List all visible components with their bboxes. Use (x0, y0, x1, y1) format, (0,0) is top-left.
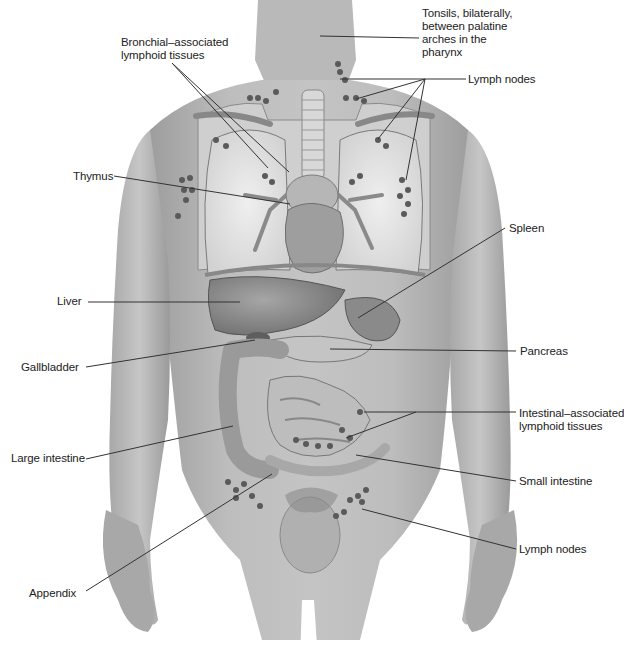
label-bronchial: Bronchial–associated lymphoid tissues (121, 36, 228, 62)
label-small-intestine: Small intestine (519, 475, 592, 488)
label-pancreas: Pancreas (520, 345, 568, 358)
label-tonsils: Tonsils, bilaterally, between palatine a… (422, 7, 512, 59)
label-gallbladder: Gallbladder (21, 361, 79, 374)
heart (285, 203, 343, 273)
label-spleen: Spleen (509, 222, 544, 235)
label-lymph-nodes-upper: Lymph nodes (468, 73, 536, 86)
label-large-intestine: Large intestine (11, 452, 85, 465)
label-thymus: Thymus (73, 170, 113, 183)
label-liver: Liver (57, 295, 81, 308)
label-intestinal: Intestinal–associated lymphoid tissues (519, 407, 624, 433)
label-lymph-nodes-lower: Lymph nodes (519, 543, 587, 556)
trachea (302, 90, 324, 180)
label-appendix: Appendix (29, 587, 76, 600)
